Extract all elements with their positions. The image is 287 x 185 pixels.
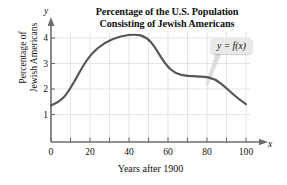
function-label-callout: y = f(x): [210, 38, 253, 54]
x-tick-label-40: 40: [116, 146, 142, 157]
x-axis-title: Years after 1900: [48, 163, 253, 174]
y-axis-title: Percentage of Jewish Americans: [17, 0, 40, 117]
chart-figure: Percentage of the U.S. Population Consis…: [0, 0, 287, 185]
callout-pointer: [206, 52, 223, 86]
x-tick-label-60: 60: [155, 146, 181, 157]
y-axis: [48, 17, 55, 142]
x-tick-label-80: 80: [194, 146, 220, 157]
y-axis-title-line-2: Jewish Americans: [28, 0, 39, 117]
x-tick-label-20: 20: [77, 146, 103, 157]
y-axis-title-line-1: Percentage of: [17, 31, 28, 83]
x-tick-label-0: 0: [38, 146, 64, 157]
x-tick-label-100: 100: [233, 146, 259, 157]
x-axis: [51, 139, 268, 146]
